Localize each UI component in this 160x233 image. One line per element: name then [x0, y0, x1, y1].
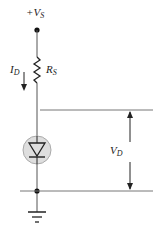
circuit-diagram — [0, 0, 160, 233]
arrow-down-icon — [127, 183, 133, 190]
supply-voltage-label: +VS — [26, 7, 44, 20]
current-arrow-icon — [21, 84, 27, 91]
diode-voltage-label: VD — [110, 145, 123, 158]
current-label: ID — [10, 64, 19, 77]
resistor-label: RS — [46, 64, 57, 77]
resistor-icon — [34, 57, 40, 83]
arrow-up-icon — [127, 111, 133, 118]
